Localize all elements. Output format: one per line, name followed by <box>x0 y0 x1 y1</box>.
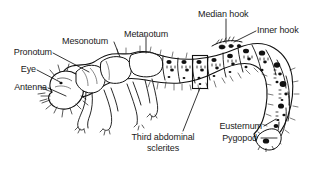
label-mesonotum: Mesonotum <box>62 36 108 47</box>
label-third-abdominal-sclerites-line1: Third abdominal <box>131 132 194 142</box>
label-eye: Eye <box>0 64 36 75</box>
label-pronotum: Pronotum <box>0 47 52 58</box>
metanotum-plate <box>129 52 162 77</box>
anatomy-figure: Pronotum Eye Antenna Mesonotum Metanotum… <box>0 0 323 169</box>
leader-inner-hook <box>234 31 256 42</box>
mesonotum-plate <box>100 57 131 84</box>
label-third-abdominal-sclerites-line2: sclerites <box>147 143 179 153</box>
label-median-hook: Median hook <box>198 9 248 20</box>
median-hook-band <box>212 37 242 49</box>
label-antenna: Antenna <box>0 82 47 93</box>
label-inner-hook: Inner hook <box>257 25 299 36</box>
label-metanotum: Metanotum <box>124 29 168 40</box>
label-pygopod: Pygopod <box>198 133 257 144</box>
label-third-abdominal-sclerites: Third abdominal sclerites <box>118 132 208 153</box>
label-eusternum: Eusternum <box>198 121 262 132</box>
